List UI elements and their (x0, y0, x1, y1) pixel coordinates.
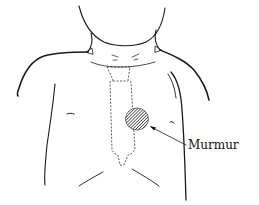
right-shoulder (160, 50, 209, 100)
left-nipple (67, 113, 74, 114)
clavicle-marks (112, 54, 139, 60)
left-torso-side (45, 84, 55, 185)
right-torso-side (171, 72, 186, 200)
murmur-area (126, 108, 149, 130)
leader-line (151, 127, 186, 145)
murmur-label: Murmur (188, 138, 239, 152)
right-nipple (170, 122, 174, 123)
arrowhead-icon (150, 126, 156, 131)
figure: Murmur (0, 0, 259, 205)
rib-margin-left (79, 172, 103, 186)
rib-margin-right (132, 169, 159, 186)
left-shoulder (17, 52, 88, 96)
collar-line (91, 62, 155, 67)
